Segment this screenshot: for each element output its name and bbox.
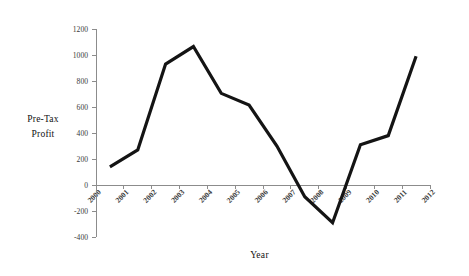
x-tick-label: 2001 (114, 188, 131, 205)
x-tick-label: 2002 (141, 188, 158, 205)
x-tick-label: 2012 (420, 188, 437, 205)
x-tick-label: 2005 (225, 188, 242, 205)
y-axis-title-line-2: Profit (6, 127, 80, 142)
y-tick-label: 0 (84, 181, 88, 190)
y-axis-title: Pre-Tax Profit (6, 112, 80, 142)
x-tick-label: 2004 (197, 188, 214, 205)
x-axis-title: Year (0, 250, 469, 260)
x-tick-label: 2010 (364, 188, 381, 205)
x-axis-title-label: Year (200, 250, 269, 260)
chart-figure: Pre-Tax Profit -400-20002004006008001000… (0, 0, 469, 276)
y-tick-label: 1200 (73, 25, 88, 34)
y-tick-label: -200 (74, 207, 88, 216)
y-tick-label: 600 (77, 103, 89, 112)
y-tick-label: -400 (74, 233, 88, 242)
x-tick-label: 2000 (86, 188, 103, 205)
y-tick-label: 800 (77, 77, 89, 86)
x-tick-label: 2011 (392, 188, 409, 205)
x-axis-ticks: 2000200120022003200420052006200720082009… (86, 185, 437, 205)
x-tick-label: 2007 (281, 188, 298, 205)
x-tick-label: 2003 (169, 188, 186, 205)
y-tick-label: 200 (77, 155, 89, 164)
y-axis-title-line-1: Pre-Tax (6, 112, 80, 127)
x-tick-label: 2006 (253, 188, 270, 205)
y-tick-label: 1000 (73, 51, 88, 60)
